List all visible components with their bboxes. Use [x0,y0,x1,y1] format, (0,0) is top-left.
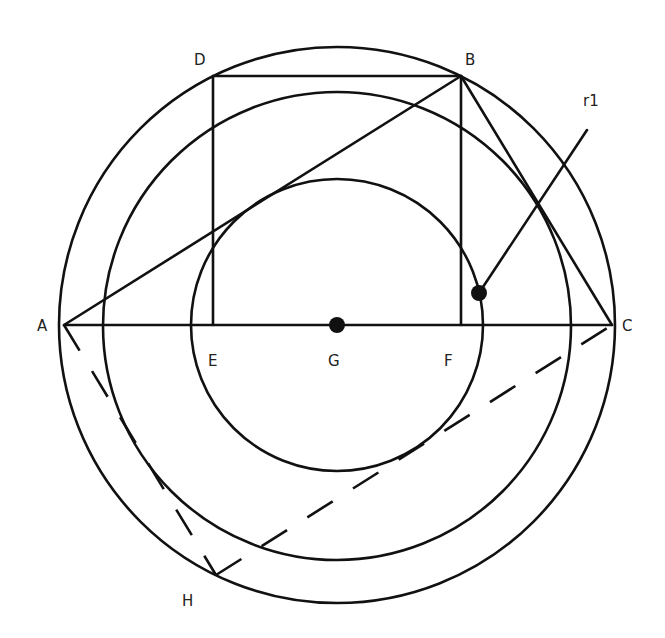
label-F: F [444,352,453,370]
label-A: A [37,317,48,335]
label-H: H [182,592,193,610]
dashed-segment-HC [216,325,612,575]
label-C: C [622,317,632,335]
label-E: E [208,352,217,370]
center-point-G [329,317,345,333]
r1-point-marker [471,285,487,301]
label-r1: r1 [583,92,599,110]
geometry-diagram: A B C D E F G H r1 [0,0,665,638]
segment-AB [64,76,461,325]
label-B: B [465,51,475,69]
label-D: D [194,51,206,69]
label-G: G [328,352,340,370]
